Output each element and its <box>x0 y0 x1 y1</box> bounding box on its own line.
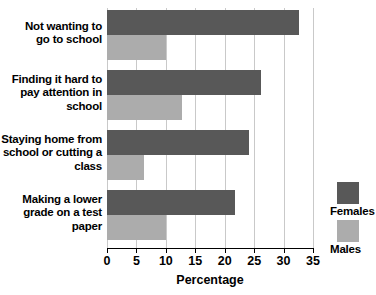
category-label-line: Staying home from <box>0 133 102 147</box>
tick-mark-25 <box>254 248 255 253</box>
bar-females-3 <box>107 190 235 215</box>
tick-label-25: 25 <box>240 254 268 268</box>
bar-chart: Not wanting togo to schoolFinding it har… <box>0 0 376 295</box>
category-label-line: school <box>0 100 102 114</box>
category-label-line: pay attention in <box>0 86 102 100</box>
bar-females-2 <box>107 130 249 155</box>
category-label-3: Making a lowergrade on a testpaper <box>0 193 102 234</box>
legend-label-males: Males <box>330 242 376 255</box>
category-label-line: go to school <box>0 33 102 47</box>
category-label-0: Not wanting togo to school <box>0 20 102 47</box>
tick-mark-0 <box>107 248 108 253</box>
category-label-line: school or cutting a <box>0 146 102 160</box>
legend-swatch-males <box>337 220 359 242</box>
tick-mark-10 <box>166 248 167 253</box>
bar-males-0 <box>107 35 166 60</box>
bar-females-1 <box>107 70 261 95</box>
legend-swatch-females <box>337 182 359 204</box>
tick-label-35: 35 <box>299 254 327 268</box>
category-label-line: Finding it hard to <box>0 73 102 87</box>
tick-mark-30 <box>284 248 285 253</box>
category-label-1: Finding it hard topay attention inschool <box>0 73 102 114</box>
x-axis-title: Percentage <box>107 273 313 287</box>
legend-entry-females: Females <box>330 182 376 217</box>
x-axis-line <box>107 248 313 249</box>
tick-mark-5 <box>136 248 137 253</box>
tick-label-15: 15 <box>181 254 209 268</box>
plot-area <box>107 8 313 248</box>
tick-label-5: 5 <box>122 254 150 268</box>
category-label-line: Not wanting to <box>0 20 102 34</box>
legend-label-females: Females <box>330 204 376 217</box>
chart-legend: FemalesMales <box>330 182 376 258</box>
gridline <box>284 8 285 248</box>
gridline <box>254 8 255 248</box>
tick-label-30: 30 <box>270 254 298 268</box>
tick-label-20: 20 <box>211 254 239 268</box>
category-label-line: paper <box>0 220 102 234</box>
tick-label-0: 0 <box>93 254 121 268</box>
bar-females-0 <box>107 10 299 35</box>
tick-mark-20 <box>225 248 226 253</box>
bar-males-1 <box>107 95 182 120</box>
legend-entry-males: Males <box>330 220 376 255</box>
gridline <box>313 8 314 248</box>
tick-label-10: 10 <box>152 254 180 268</box>
tick-mark-35 <box>313 248 314 253</box>
bar-males-3 <box>107 215 166 240</box>
category-label-line: grade on a test <box>0 206 102 220</box>
category-label-2: Staying home fromschool or cutting aclas… <box>0 133 102 174</box>
bar-males-2 <box>107 155 144 180</box>
tick-mark-15 <box>195 248 196 253</box>
category-label-line: Making a lower <box>0 193 102 207</box>
category-axis-labels: Not wanting togo to schoolFinding it har… <box>0 0 104 248</box>
category-label-line: class <box>0 160 102 174</box>
